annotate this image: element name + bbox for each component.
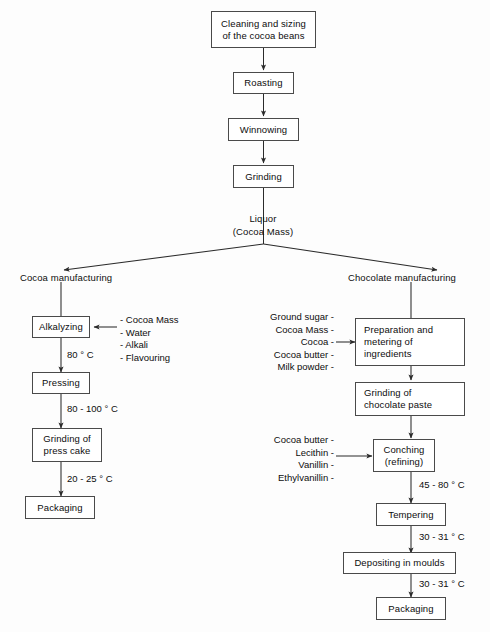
node-winnowing[interactable]: Winnowing bbox=[228, 118, 299, 141]
node-tempering[interactable]: Tempering bbox=[376, 503, 446, 526]
node-roasting-label: Roasting bbox=[244, 77, 282, 89]
arrow-split-left bbox=[64, 244, 264, 270]
node-preparation-and-metering[interactable]: Preparation and metering of ingredients bbox=[355, 318, 465, 366]
node-cocoa-packaging-label: Packaging bbox=[37, 502, 82, 514]
branch-label-cocoa-manufacturing: Cocoa manufacturing bbox=[20, 272, 170, 285]
node-depositing-in-moulds-label: Depositing in moulds bbox=[354, 557, 444, 569]
node-conching-label: Conching (refining) bbox=[384, 444, 425, 468]
alkalyzing-additives-list: - Cocoa Mass - Water - Alkali - Flavouri… bbox=[120, 314, 179, 364]
temperature-grinding-to-packaging: 20 - 25 ° C bbox=[67, 473, 113, 485]
node-cleaning-and-sizing[interactable]: Cleaning and sizing of the cocoa beans bbox=[211, 11, 316, 48]
node-conching[interactable]: Conching (refining) bbox=[373, 439, 435, 472]
node-alkalyzing[interactable]: Alkalyzing bbox=[32, 316, 90, 338]
node-depositing-in-moulds[interactable]: Depositing in moulds bbox=[343, 552, 456, 574]
node-tempering-label: Tempering bbox=[388, 509, 433, 521]
temperature-conching-to-tempering: 45 - 80 ° C bbox=[419, 479, 465, 491]
temperature-pressing-to-grinding: 80 - 100 ° C bbox=[67, 403, 118, 415]
branch-label-chocolate-manufacturing: Chocolate manufacturing bbox=[348, 272, 490, 285]
temperature-depositing-to-packaging: 30 - 31 ° C bbox=[419, 578, 465, 590]
node-preparation-and-metering-label: Preparation and metering of ingredients bbox=[359, 324, 461, 360]
conching-ingredients-list: Cocoa butter - Lecithin - Vanillin - Eth… bbox=[212, 434, 334, 484]
node-grinding-of-chocolate-paste[interactable]: Grinding of chocolate paste bbox=[355, 382, 465, 416]
node-roasting[interactable]: Roasting bbox=[233, 72, 294, 94]
node-cleaning-and-sizing-label: Cleaning and sizing of the cocoa beans bbox=[221, 18, 306, 42]
node-pressing-label: Pressing bbox=[42, 377, 80, 389]
preparation-ingredients-list: Ground sugar - Cocoa Mass - Cocoa - Coco… bbox=[210, 311, 334, 374]
node-pressing[interactable]: Pressing bbox=[32, 372, 90, 394]
node-grinding-of-press-cake-label: Grinding of press cake bbox=[43, 433, 91, 457]
node-cocoa-packaging[interactable]: Packaging bbox=[25, 496, 95, 519]
node-grinding-label: Grinding bbox=[245, 171, 282, 183]
node-winnowing-label: Winnowing bbox=[240, 124, 287, 136]
node-grinding-of-press-cake[interactable]: Grinding of press cake bbox=[32, 428, 102, 462]
node-alkalyzing-label: Alkalyzing bbox=[39, 321, 83, 333]
node-chocolate-packaging[interactable]: Packaging bbox=[376, 597, 446, 620]
temperature-tempering-to-depositing: 30 - 31 ° C bbox=[419, 531, 465, 543]
flowchart-canvas: Cleaning and sizing of the cocoa beans R… bbox=[0, 0, 490, 632]
liquor-label: Liquor (Cocoa Mass) bbox=[193, 213, 333, 238]
node-chocolate-packaging-label: Packaging bbox=[388, 603, 433, 615]
node-grinding[interactable]: Grinding bbox=[233, 165, 294, 188]
node-grinding-of-chocolate-paste-label: Grinding of chocolate paste bbox=[359, 387, 461, 411]
temperature-alkalyzing-to-pressing: 80 ° C bbox=[67, 349, 94, 361]
arrow-split-right bbox=[264, 244, 438, 270]
